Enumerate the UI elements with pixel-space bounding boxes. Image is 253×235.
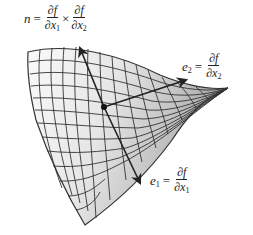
partial-fraction-1: ∂f ∂x1	[45, 4, 60, 33]
equals-sign: =	[195, 59, 202, 75]
e2-symbol: e2	[182, 59, 192, 75]
surface-point	[101, 104, 107, 110]
normal-symbol: n	[24, 11, 31, 27]
denominator-var: ∂x	[45, 18, 56, 32]
numerator: ∂f	[73, 4, 84, 18]
numerator: ∂f	[208, 52, 219, 66]
tangent-e2-label: e2 = ∂f ∂x2	[182, 52, 222, 81]
subscript: 2	[83, 24, 87, 33]
denominator-var: ∂x	[174, 180, 185, 194]
tangent-e1-label: e1 = ∂f ∂x1	[150, 166, 190, 195]
partial-fraction-2: ∂f ∂x2	[71, 4, 86, 33]
subscript: 1	[156, 180, 160, 189]
numerator: ∂f	[47, 4, 58, 18]
denominator: ∂x1	[174, 180, 189, 195]
partial-fraction: ∂f ∂x2	[206, 52, 221, 81]
e1-symbol: e1	[150, 173, 160, 189]
subscript: 2	[188, 66, 192, 75]
denominator-var: ∂x	[71, 18, 82, 32]
normal-vector-label: n = ∂f ∂x1 × ∂f ∂x2	[24, 4, 88, 33]
denominator: ∂x1	[45, 18, 60, 33]
subscript: 1	[185, 186, 189, 195]
cross-product-sign: ×	[62, 11, 69, 27]
subscript: 2	[217, 72, 221, 81]
denominator: ∂x2	[71, 18, 86, 33]
numerator: ∂f	[176, 166, 187, 180]
subscript: 1	[56, 24, 60, 33]
equals-sign: =	[163, 173, 170, 189]
equals-sign: =	[34, 11, 41, 27]
denominator: ∂x2	[206, 66, 221, 81]
surface-diagram	[0, 0, 253, 235]
denominator-var: ∂x	[206, 66, 217, 80]
partial-fraction: ∂f ∂x1	[174, 166, 189, 195]
